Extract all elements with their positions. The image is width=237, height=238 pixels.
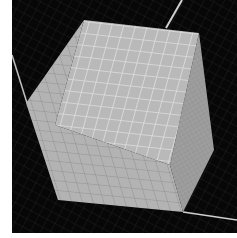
- scene-canvas: [12, 0, 237, 233]
- 3d-viewport[interactable]: [12, 0, 237, 233]
